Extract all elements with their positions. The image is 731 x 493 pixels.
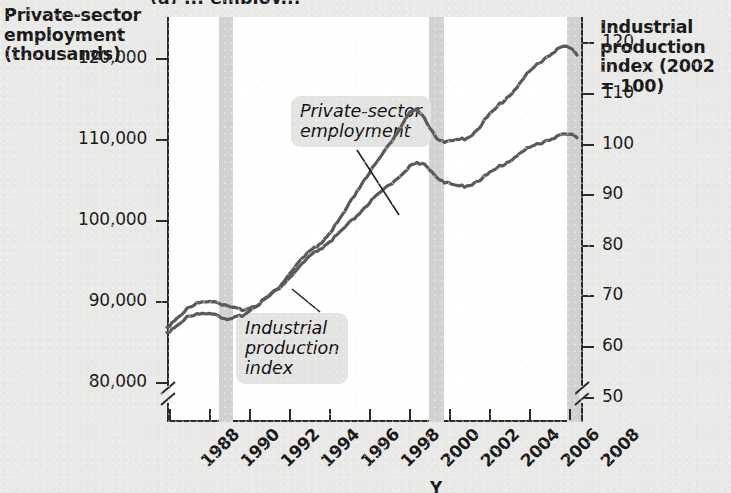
- left-axis-tick: [156, 58, 167, 60]
- x-axis-tick-label: 1988: [197, 424, 244, 471]
- right-axis-tick-label: 60: [602, 335, 623, 355]
- annotation-private-sector-employment: Private-sector employment: [291, 96, 431, 147]
- x-axis-tick-labels: 1988199019921994199619982000200220042006…: [167, 424, 587, 493]
- x-axis-tick: [489, 409, 491, 420]
- right-axis-tick: [583, 93, 594, 95]
- right-axis-tick: [583, 295, 594, 297]
- right-axis-tick-label: 120: [602, 31, 634, 51]
- x-axis-tick-label: 2008: [597, 424, 644, 471]
- right-axis-tick-label: 80: [602, 234, 623, 254]
- left-axis-tick-labels: 120,000110,000100,00090,00080,000: [0, 17, 155, 422]
- chart-figure: (a) ... employ... Private-sector employm…: [0, 0, 731, 493]
- right-axis-tick: [583, 245, 594, 247]
- x-axis-tick-label: 1990: [237, 424, 284, 471]
- right-axis-tick-label: 90: [602, 183, 623, 203]
- left-axis-tick-label: 90,000: [89, 290, 147, 310]
- right-axis-tick: [583, 42, 594, 44]
- x-axis-tick-label: 1992: [277, 424, 324, 471]
- x-axis-tick: [289, 409, 291, 420]
- right-axis-tick-label: 50: [602, 386, 623, 406]
- recession-band: [567, 17, 581, 422]
- right-axis-tick-label: 70: [602, 284, 623, 304]
- left-axis-tick-label: 120,000: [78, 47, 147, 67]
- x-axis-tick: [569, 409, 571, 420]
- x-axis-tick: [249, 409, 251, 420]
- clipped-figure-title: (a) ... employ...: [150, 0, 450, 4]
- left-axis-tick: [156, 382, 167, 384]
- left-axis-tick-label: 80,000: [89, 371, 147, 391]
- plot-area: [167, 17, 583, 422]
- right-axis-tick-label: 110: [602, 82, 634, 102]
- x-axis-title: Y: [430, 478, 442, 493]
- right-axis-tick: [583, 397, 594, 399]
- x-axis-tick-label: 2000: [437, 424, 484, 471]
- left-axis-tick: [156, 220, 167, 222]
- x-axis-tick: [369, 409, 371, 420]
- x-axis-tick: [449, 409, 451, 420]
- right-axis-tick: [583, 144, 594, 146]
- right-axis-tick-label: 100: [602, 133, 634, 153]
- x-axis-tick-label: 2006: [557, 424, 604, 471]
- recession-band: [219, 17, 233, 422]
- left-axis-tick-label: 100,000: [78, 209, 147, 229]
- x-axis-tick-label: 2004: [517, 424, 564, 471]
- x-axis-tick-label: 1994: [317, 424, 364, 471]
- x-axis-tick: [529, 409, 531, 420]
- left-axis-tick-label: 110,000: [78, 128, 147, 148]
- right-axis-tick: [583, 194, 594, 196]
- x-axis-tick-label: 1998: [397, 424, 444, 471]
- right-axis-tick-labels: 1201101009080706050: [600, 17, 680, 422]
- left-axis-tick: [156, 301, 167, 303]
- x-axis-tick: [209, 409, 211, 420]
- x-axis-tick: [329, 409, 331, 420]
- x-axis-tick: [409, 409, 411, 420]
- left-axis-tick: [156, 139, 167, 141]
- annotation-industrial-production-index: Industrial production index: [236, 313, 348, 384]
- recession-band: [429, 17, 444, 422]
- x-axis-tick-label: 2002: [477, 424, 524, 471]
- right-axis-tick: [583, 346, 594, 348]
- x-axis-tick: [169, 409, 171, 420]
- x-axis-tick-label: 1996: [357, 424, 404, 471]
